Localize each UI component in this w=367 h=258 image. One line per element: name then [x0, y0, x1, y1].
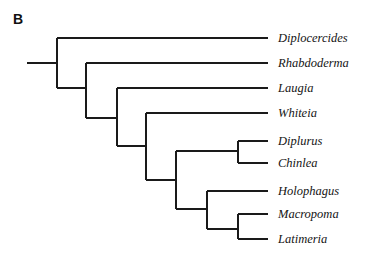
phylogenetic-tree-figure: B DiplocercidesRhabdodermaLaugiaWhiteiaD… — [0, 0, 367, 258]
tip-label-latimeria: Latimeria — [278, 233, 327, 246]
tip-label-diplurus: Diplurus — [278, 135, 322, 148]
tip-label-chinlea: Chinlea — [278, 157, 318, 170]
tip-label-rhabdoderma: Rhabdoderma — [278, 57, 349, 70]
tip-label-group: DiplocercidesRhabdodermaLaugiaWhiteiaDip… — [0, 0, 367, 258]
tip-label-diplocercides: Diplocercides — [278, 32, 348, 45]
tip-label-macropoma: Macropoma — [278, 208, 339, 221]
tip-label-laugia: Laugia — [278, 82, 313, 95]
tip-label-whiteia: Whiteia — [278, 107, 317, 120]
tip-label-holophagus: Holophagus — [278, 185, 339, 198]
